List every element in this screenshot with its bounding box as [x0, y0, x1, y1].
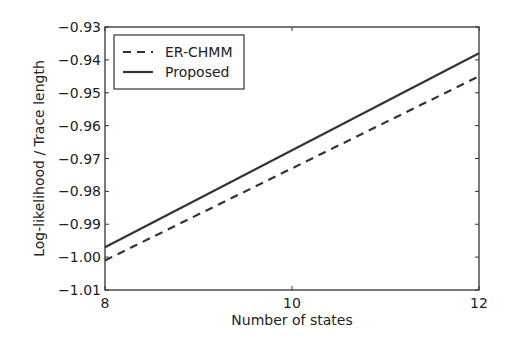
series-line-er-chmm — [105, 76, 479, 260]
legend-label: Proposed — [165, 64, 229, 80]
y-tick-label: −0.98 — [58, 183, 101, 199]
y-tick-label: −0.99 — [58, 216, 101, 232]
y-axis-label: Log-likelihood / Trace length — [31, 60, 47, 257]
line-chart: −0.93−0.94−0.95−0.96−0.97−0.98−0.99−1.00… — [0, 0, 513, 344]
y-tick-label: −0.94 — [58, 52, 101, 68]
x-tick-label: 12 — [470, 295, 488, 311]
y-tick-label: −1.00 — [58, 249, 101, 265]
legend-label: ER-CHMM — [165, 44, 233, 60]
y-tick-label: −0.93 — [58, 19, 101, 35]
y-tick-label: −0.96 — [58, 118, 101, 134]
x-axis-label: Number of states — [231, 312, 352, 328]
y-tick-label: −0.97 — [58, 151, 101, 167]
y-tick-label: −1.01 — [58, 282, 101, 298]
y-tick-label: −0.95 — [58, 85, 101, 101]
x-tick-label: 10 — [283, 295, 301, 311]
x-tick-label: 8 — [101, 295, 110, 311]
